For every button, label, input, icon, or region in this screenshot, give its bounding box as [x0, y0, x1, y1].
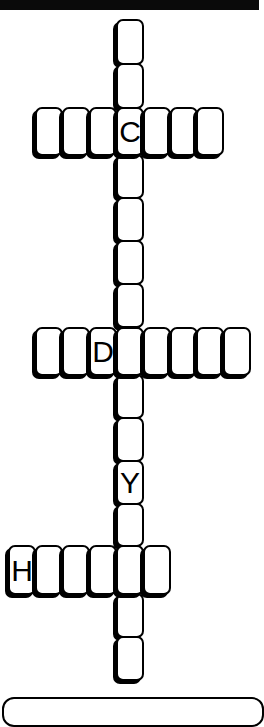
bottom-panel	[2, 697, 264, 727]
crossword-cell[interactable]	[116, 417, 144, 462]
crossword-cell-given-c[interactable]: C	[116, 107, 144, 156]
crossword-cell-given-h[interactable]: H	[8, 545, 36, 595]
crossword-cell[interactable]	[116, 63, 144, 109]
crossword-cell[interactable]	[116, 503, 144, 547]
crossword-cell[interactable]	[62, 545, 90, 595]
crossword-cell[interactable]	[116, 19, 144, 65]
crossword-cell[interactable]	[116, 197, 144, 242]
crossword-cell[interactable]	[35, 327, 63, 376]
crossword-cell[interactable]	[116, 327, 144, 376]
crossword-cell[interactable]	[170, 327, 198, 376]
crossword-cell[interactable]	[116, 283, 144, 328]
crossword-cell[interactable]	[143, 327, 171, 376]
crossword-cell[interactable]	[89, 107, 117, 156]
crossword-cell[interactable]	[62, 107, 90, 156]
crossword-cell-given-y[interactable]: Y	[116, 460, 144, 505]
crossword-cell[interactable]	[116, 636, 144, 681]
crossword-cell[interactable]	[143, 107, 171, 156]
crossword-cell[interactable]	[35, 107, 63, 156]
crossword-cell[interactable]	[116, 545, 144, 595]
crossword-cell[interactable]	[89, 545, 117, 595]
crossword-cell[interactable]	[116, 374, 144, 419]
crossword-cell[interactable]	[116, 154, 144, 199]
crossword-cell[interactable]	[143, 545, 171, 595]
crossword-cell[interactable]	[116, 593, 144, 638]
crossword-cell[interactable]	[196, 107, 224, 156]
crossword-cell[interactable]	[223, 327, 251, 376]
crossword-cell-given-d[interactable]: D	[89, 327, 117, 376]
crossword-cell[interactable]	[35, 545, 63, 595]
crossword-cell[interactable]	[170, 107, 198, 156]
crossword-cell[interactable]	[116, 240, 144, 285]
crossword-cell[interactable]	[62, 327, 90, 376]
crossword-cell[interactable]	[196, 327, 224, 376]
